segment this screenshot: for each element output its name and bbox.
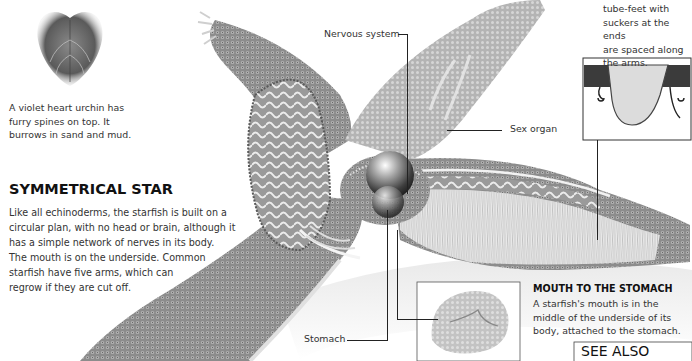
mouth-to-stomach-body: A starfish's mouth is in the middle of t… <box>533 297 681 338</box>
leader-mouth-horizontal <box>397 319 438 320</box>
heart-urchin-image <box>37 12 102 86</box>
caption-line: suckers at the ends <box>603 16 692 43</box>
body-line: regrow if they are cut off. <box>9 280 235 295</box>
urchin-caption: A violet heart urchin has furry spines o… <box>9 101 131 142</box>
symmetrical-star-title: SYMMETRICAL STAR <box>9 181 173 197</box>
caption-line: burrows in sand and mud. <box>9 128 131 142</box>
body-line: circular plan, with no head or brain, al… <box>9 220 235 235</box>
leader-sex-organ <box>447 130 502 131</box>
body-line: has a simple network of nerves in its bo… <box>9 235 235 250</box>
body-line: The mouth is on the underside. Common <box>9 250 235 265</box>
leader-nervous-vertical <box>407 34 408 194</box>
leader-mouth-vertical <box>397 230 398 319</box>
body-line: body, attached to the stomach. <box>533 324 681 338</box>
caption-line: tube-feet with <box>603 2 692 16</box>
body-line: starfish have five arms, which can <box>9 265 235 280</box>
body-line: Like all echinoderms, the starfish is bu… <box>9 205 235 220</box>
symmetrical-star-body: Like all echinoderms, the starfish is bu… <box>9 205 235 295</box>
caption-line: are spaced along <box>603 43 692 57</box>
label-sex-organ: Sex organ <box>510 123 557 134</box>
see-also-title: SEE ALSO <box>581 343 649 359</box>
leader-stomach-vertical <box>387 210 388 341</box>
tube-feet-caption: tube-feet with suckers at the ends are s… <box>603 2 692 70</box>
leader-stomach-horizontal <box>347 340 387 341</box>
caption-line: furry spines on top. It <box>9 115 131 129</box>
caption-line: A violet heart urchin has <box>9 101 131 115</box>
mouth-to-stomach-title: MOUTH TO THE STOMACH <box>533 283 673 294</box>
label-stomach: Stomach <box>304 333 345 344</box>
body-line: middle of the underside of its <box>533 311 681 325</box>
body-line: A starfish's mouth is in the <box>533 297 681 311</box>
caption-line: the arms. <box>603 56 692 70</box>
leader-tubefeet <box>597 140 598 240</box>
tube-foot-inset <box>583 58 691 140</box>
label-nervous-system: Nervous system <box>324 28 400 39</box>
mouth-inset <box>417 282 520 361</box>
